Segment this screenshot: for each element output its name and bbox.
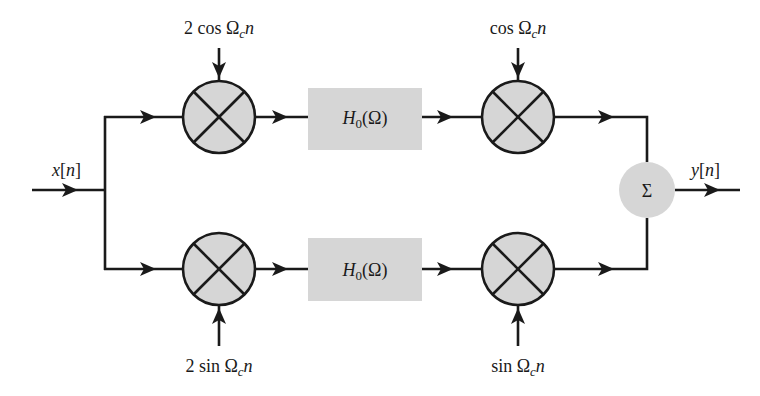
- svg-text:H0(Ω): H0(Ω): [342, 108, 388, 131]
- bottom-wire-4: [554, 218, 647, 269]
- block-diagram: x[n] 2 cos Ωcn H0(Ω) cos Ωcn: [0, 0, 760, 396]
- top-carrier-2-label: cos Ωcn: [490, 18, 547, 41]
- bottom-carrier-1-label: 2 sin Ωcn: [185, 356, 252, 379]
- svg-text:H0(Ω): H0(Ω): [342, 260, 388, 283]
- summing-node: Σ: [619, 162, 675, 218]
- bottom-mixer-1: [183, 233, 255, 305]
- top-branch: 2 cos Ωcn H0(Ω) cos Ωcn: [104, 18, 647, 162]
- bottom-mixer-2: [482, 233, 554, 305]
- top-wire-4: [554, 117, 647, 162]
- sigma-icon: Σ: [642, 181, 652, 201]
- bottom-filter-box: H0(Ω): [308, 238, 422, 301]
- bottom-branch: 2 sin Ωcn H0(Ω) sin Ωcn: [104, 218, 647, 379]
- output-signal: y[n]: [675, 160, 740, 197]
- top-mixer-1: [183, 81, 255, 153]
- output-label: y[n]: [689, 160, 720, 180]
- top-filter-box: H0(Ω): [308, 88, 422, 150]
- input-signal: x[n]: [32, 160, 105, 197]
- top-carrier-1-label: 2 cos Ωcn: [184, 18, 254, 41]
- input-label: x[n]: [51, 160, 81, 180]
- top-mixer-2: [482, 81, 554, 153]
- bottom-carrier-2-label: sin Ωcn: [491, 356, 545, 379]
